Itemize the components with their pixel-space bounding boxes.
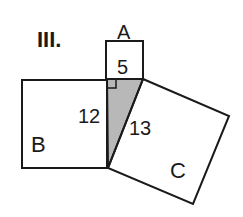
label-c: C xyxy=(170,158,186,183)
side-label-5: 5 xyxy=(117,56,128,78)
label-b: B xyxy=(31,132,46,157)
label-a: A xyxy=(117,21,131,43)
side-label-13: 13 xyxy=(129,117,151,139)
pythagorean-diagram: III. A 5 12 13 B C xyxy=(0,0,243,217)
figure-title: III. xyxy=(37,27,61,52)
side-label-12: 12 xyxy=(78,105,100,127)
